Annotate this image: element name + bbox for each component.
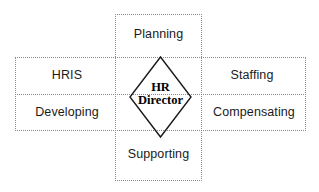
label-hris: HRIS <box>19 69 115 82</box>
label-developing: Developing <box>19 106 115 119</box>
hr-director-diagram: Planning HRIS Staffing Developing Compen… <box>0 0 319 192</box>
label-staffing: Staffing <box>202 69 302 82</box>
label-compensating: Compensating <box>202 106 306 119</box>
label-supporting: Supporting <box>115 148 202 161</box>
center-label-line-2: Director <box>126 94 195 107</box>
center-diamond-label: HR Director <box>126 81 195 107</box>
label-planning: Planning <box>115 28 202 41</box>
